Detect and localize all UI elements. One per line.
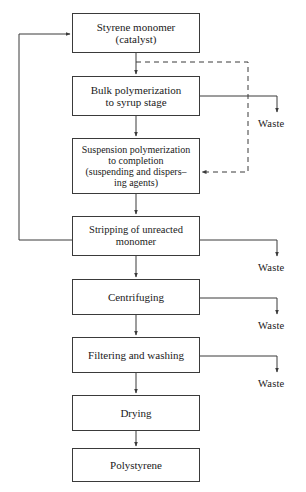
waste-label-bulk: Waste <box>258 118 284 129</box>
node-centrifuging[interactable]: Centrifuging <box>72 279 200 315</box>
node-filtering-and-washing[interactable]: Filtering and washing <box>72 337 200 373</box>
node-suspension-polymerization[interactable]: Suspension polymerization to completion … <box>72 138 200 194</box>
node-polystyrene[interactable]: Polystyrene <box>72 448 200 482</box>
node-bulk-polymerization[interactable]: Bulk polymerization to syrup stage <box>72 76 200 116</box>
connector-filtering-waste-line <box>200 356 277 372</box>
connector-bulk-waste-line <box>200 96 277 112</box>
connector-centrifuging-waste-line <box>200 298 277 314</box>
node-label-filtering-and-washing: Filtering and washing <box>86 349 186 361</box>
connector-stripping-waste-line <box>200 240 277 256</box>
waste-label-filtering: Waste <box>258 378 284 389</box>
node-stripping-of-unreacted-monomer[interactable]: Stripping of unreacted monomer <box>72 216 200 256</box>
connector-monomer-recycle-loop <box>19 34 72 240</box>
node-styrene-monomer[interactable]: Styrene monomer (catalyst) <box>72 13 200 53</box>
node-label-drying: Drying <box>118 407 153 419</box>
node-label-stripping-of-unreacted-monomer: Stripping of unreacted monomer <box>87 224 185 248</box>
node-label-polystyrene: Polystyrene <box>108 459 164 471</box>
process-flow-diagram: Styrene monomer (catalyst) Bulk polymeri… <box>0 0 306 492</box>
node-label-centrifuging: Centrifuging <box>106 291 166 303</box>
node-label-styrene-monomer: Styrene monomer (catalyst) <box>95 21 178 46</box>
waste-label-stripping: Waste <box>258 262 284 273</box>
waste-label-centrifuging: Waste <box>258 320 284 331</box>
node-label-bulk-polymerization: Bulk polymerization to syrup stage <box>89 84 184 109</box>
node-drying[interactable]: Drying <box>72 395 200 431</box>
node-label-suspension-polymerization: Suspension polymerization to completion … <box>80 144 193 189</box>
